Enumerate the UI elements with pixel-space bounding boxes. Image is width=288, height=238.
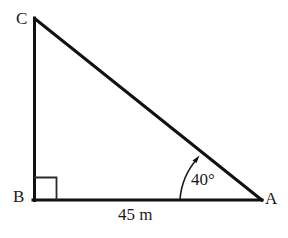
angle-label: 40° (191, 171, 215, 188)
triangle-figure (0, 0, 288, 238)
right-angle-marker (34, 178, 57, 201)
vertex-label-b: B (13, 188, 24, 205)
edge-ca (34, 18, 263, 201)
vertex-label-a: A (265, 190, 277, 207)
side-length-label: 45 m (118, 206, 152, 223)
vertex-label-c: C (16, 10, 27, 27)
angle-arrowhead (193, 156, 200, 164)
